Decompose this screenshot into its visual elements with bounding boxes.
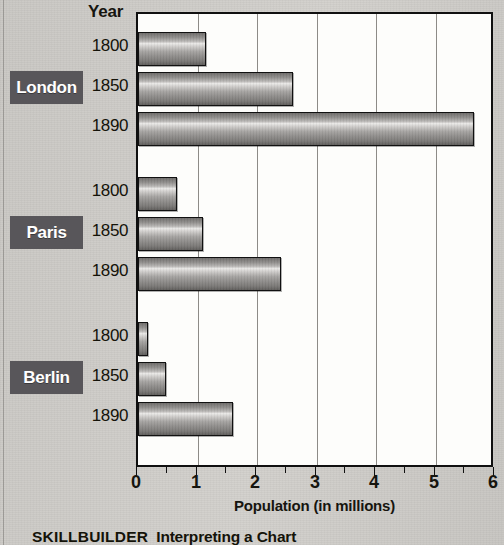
x-tick-minor-2-5 [285, 467, 286, 473]
x-tick-minor-3-5 [344, 467, 345, 473]
caption-skillbuilder-word: SKILLBUILDER [32, 528, 148, 545]
category-label-paris: Paris [10, 216, 83, 249]
x-tick-minor-1-5 [225, 467, 226, 473]
x-tick-label-1: 1 [176, 472, 216, 493]
x-tick-minor-5-5 [463, 467, 464, 473]
bar-paris-1890 [138, 257, 281, 291]
x-tick-minor-4-5 [404, 467, 405, 473]
page-margin-rule [3, 0, 4, 545]
x-tick-label-2: 2 [235, 472, 275, 493]
x-tick-label-4: 4 [354, 472, 394, 493]
bar-berlin-1890 [138, 402, 233, 436]
chart-plot-area [136, 12, 493, 467]
year-label-paris-1890: 1890 [80, 261, 128, 281]
bar-london-1800 [138, 32, 206, 66]
x-tick-label-6: 6 [473, 472, 504, 493]
x-tick-minor-0-5 [166, 467, 167, 473]
year-label-london-1850: 1850 [80, 76, 128, 96]
year-label-berlin-1890: 1890 [80, 406, 128, 426]
year-label-london-1800: 1800 [80, 36, 128, 56]
year-label-paris-1800: 1800 [80, 181, 128, 201]
bar-london-1850 [138, 72, 293, 106]
year-label-london-1890: 1890 [80, 116, 128, 136]
gridline-5 [436, 14, 437, 465]
caption-title-text: Interpreting a Chart [156, 528, 296, 545]
category-label-london: London [10, 71, 83, 104]
x-tick-label-5: 5 [414, 472, 454, 493]
bar-london-1890 [138, 112, 474, 146]
bar-berlin-1850 [138, 362, 166, 396]
year-column-header: Year [88, 2, 123, 22]
year-label-berlin-1850: 1850 [80, 366, 128, 386]
bar-paris-1800 [138, 177, 177, 211]
bar-berlin-1800 [138, 322, 148, 356]
category-label-berlin: Berlin [10, 361, 83, 394]
x-tick-label-3: 3 [295, 472, 335, 493]
x-axis-title: Population (in millions) [136, 497, 493, 514]
gridline-3 [317, 14, 318, 465]
x-tick-label-0: 0 [116, 472, 156, 493]
figure-caption: SKILLBUILDER Interpreting a Chart [32, 528, 296, 545]
year-label-berlin-1800: 1800 [80, 326, 128, 346]
gridline-4 [376, 14, 377, 465]
year-label-paris-1850: 1850 [80, 221, 128, 241]
bar-paris-1850 [138, 217, 203, 251]
